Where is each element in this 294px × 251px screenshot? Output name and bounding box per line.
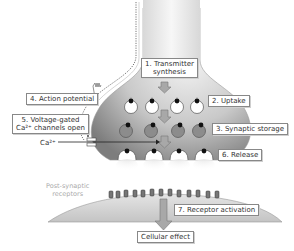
label-calcium-ion: Ca²⁺ bbox=[40, 139, 56, 147]
label-transmitter-synthesis: 1. Transmitter synthesis bbox=[141, 58, 198, 78]
label-text: 1. Transmitter bbox=[145, 60, 194, 68]
label-text: synthesis bbox=[145, 68, 194, 76]
label-synaptic-storage: 3. Synaptic storage bbox=[212, 123, 288, 135]
label-text: 4. Action potential bbox=[30, 95, 94, 103]
label-text: 7. Receptor activation bbox=[178, 206, 255, 214]
label-text: Ca²⁺ channels open bbox=[16, 124, 85, 132]
label-cellular-effect: Cellular effect bbox=[137, 231, 194, 243]
label-receptor-activation: 7. Receptor activation bbox=[174, 204, 259, 216]
label-action-potential: 4. Action potential bbox=[26, 93, 98, 105]
label-text: 3. Synaptic storage bbox=[216, 125, 284, 133]
label-uptake: 2. Uptake bbox=[208, 95, 250, 107]
label-text: 6. Release bbox=[222, 151, 258, 159]
label-voltage-gated-channels: 5. Voltage-gated Ca²⁺ channels open bbox=[12, 114, 89, 134]
label-text: Cellular effect bbox=[141, 233, 190, 241]
label-postsynaptic-receptors: Post-synaptic receptors bbox=[46, 182, 89, 198]
label-text: 5. Voltage-gated bbox=[16, 116, 85, 124]
label-release: 6. Release bbox=[218, 149, 262, 161]
label-text: 2. Uptake bbox=[212, 97, 246, 105]
label-text: Post-synaptic bbox=[46, 182, 89, 190]
label-text: receptors bbox=[46, 190, 89, 198]
